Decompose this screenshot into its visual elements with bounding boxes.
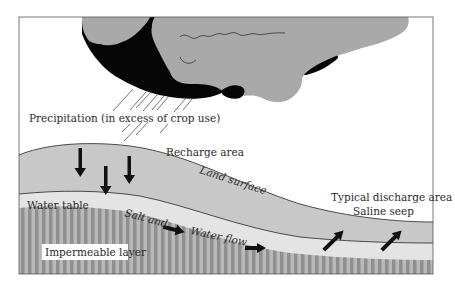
impermeable-layer-label: Impermeable layer [45, 246, 147, 258]
storm-cloud [82, 17, 409, 102]
water-table-label: Water table [27, 199, 89, 211]
saline-seep-label: Saline seep [353, 205, 414, 217]
saline-seep-diagram: Precipitation (in excess of crop use) Re… [0, 0, 455, 286]
precipitation-label: Precipitation (in excess of crop use) [29, 112, 220, 124]
discharge-area-label: Typical discharge area [331, 191, 452, 203]
recharge-area-label: Recharge area [166, 146, 244, 158]
